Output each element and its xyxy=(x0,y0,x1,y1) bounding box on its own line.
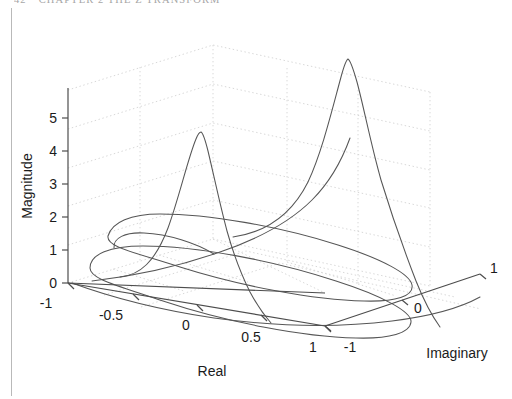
axis-title-magnitude: Magnitude xyxy=(19,153,35,219)
ticklabel-y-neg1: -1 xyxy=(344,339,357,355)
surface-mesh xyxy=(72,59,480,338)
grid-lines xyxy=(68,45,481,309)
tick-y-0 xyxy=(402,300,408,305)
axis-real xyxy=(68,283,325,293)
curve-ridge-sweep xyxy=(92,138,350,281)
axis-title-imaginary: Imaginary xyxy=(426,345,487,361)
magnitude-ticks xyxy=(62,118,68,283)
ticklabel-x-neg05: -0.5 xyxy=(99,307,123,323)
tick-y-1 xyxy=(480,274,486,279)
grid-z-2 xyxy=(68,161,430,208)
ticklabel-z-3: 3 xyxy=(49,176,57,192)
plot-canvas: 5 4 3 2 1 0 Magnitude -1 -0.5 0 0.5 1 Re… xyxy=(0,0,512,399)
grid-floor-e xyxy=(159,255,248,282)
ticklabel-x-05: 0.5 xyxy=(241,329,261,345)
curve-tall-peak xyxy=(233,59,440,327)
ticklabel-x-neg1: -1 xyxy=(40,295,53,311)
grid-floor-b xyxy=(104,251,455,297)
book-page: 42CHAPTER 2 THE Z TRANSFORM xyxy=(0,0,512,399)
ticklabel-z-2: 2 xyxy=(49,209,57,225)
grid-z-4 xyxy=(68,84,430,131)
grid-floor-f xyxy=(213,239,325,293)
ticklabel-x-0: 0 xyxy=(182,317,190,333)
ticklabel-z-0: 0 xyxy=(49,275,57,291)
grid-z-3 xyxy=(68,123,430,170)
grid-floor-g xyxy=(287,262,360,284)
tick-y-neg1 xyxy=(325,326,331,331)
grid-z-5 xyxy=(68,45,430,92)
ticklabel-z-5: 5 xyxy=(49,110,57,126)
imaginary-ticks xyxy=(325,274,486,331)
grid-floor-h xyxy=(358,284,396,296)
axis-title-real: Real xyxy=(198,363,227,379)
grid-floor-a1 xyxy=(213,239,430,286)
figure-z-transform-surface: 5 4 3 2 1 0 Magnitude -1 -0.5 0 0.5 1 Re… xyxy=(0,0,512,399)
ticklabel-z-4: 4 xyxy=(49,143,57,159)
ticklabel-y-1: 1 xyxy=(490,260,498,276)
ticklabel-z-1: 1 xyxy=(49,242,57,258)
ticklabel-x-1: 1 xyxy=(309,339,317,355)
ticklabel-y-0: 0 xyxy=(414,300,422,316)
